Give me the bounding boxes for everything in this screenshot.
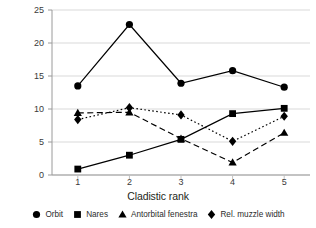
data-point bbox=[126, 21, 133, 28]
data-point bbox=[281, 84, 288, 91]
triangle-marker-icon bbox=[117, 209, 128, 220]
circle-marker-icon bbox=[31, 209, 42, 220]
series-line bbox=[78, 25, 284, 88]
legend-item-label: Orbit bbox=[45, 210, 63, 219]
legend-item-label: Nares bbox=[86, 210, 108, 219]
legend-item-label: Rel. muzzle width bbox=[220, 210, 284, 219]
legend-item-label: Antorbital fenestra bbox=[131, 210, 197, 219]
square-marker-icon bbox=[72, 209, 83, 220]
legend-item-rel-muzzle-width[interactable]: Rel. muzzle width bbox=[206, 209, 284, 220]
data-point bbox=[126, 103, 133, 112]
data-point bbox=[74, 115, 81, 124]
data-point bbox=[74, 82, 81, 89]
data-point bbox=[229, 158, 237, 165]
data-point bbox=[74, 166, 81, 173]
data-point bbox=[281, 112, 288, 121]
chart-container: Lateral area of skull openings (%) 05101… bbox=[0, 0, 316, 228]
legend-item-antorbital-fenestra[interactable]: Antorbital fenestra bbox=[117, 209, 197, 220]
legend-item-nares[interactable]: Nares bbox=[72, 209, 108, 220]
data-point bbox=[229, 110, 236, 117]
diamond-marker-icon bbox=[206, 209, 217, 220]
data-point bbox=[177, 110, 184, 119]
x-axis-label: Cladistic rank bbox=[0, 190, 316, 202]
legend-item-orbit[interactable]: Orbit bbox=[31, 209, 63, 220]
data-point bbox=[177, 80, 184, 87]
data-point bbox=[126, 152, 133, 159]
data-point bbox=[281, 105, 288, 112]
series-orbit bbox=[74, 21, 288, 91]
data-point bbox=[280, 129, 288, 136]
chart-legend: OrbitNaresAntorbital fenestraRel. muzzle… bbox=[0, 209, 316, 220]
data-point bbox=[229, 67, 236, 74]
data-point bbox=[229, 137, 236, 146]
